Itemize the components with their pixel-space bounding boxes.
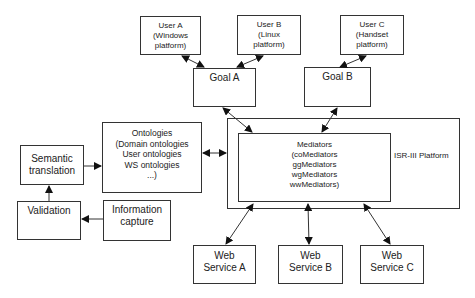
goal-b-box: Goal B [304, 67, 371, 107]
user-c-box: User C (Handset platform) [340, 15, 404, 55]
mediators-title: Mediators [297, 140, 332, 150]
ontologies-line: User ontologies [122, 149, 181, 160]
arrow-mediators-ws-a [226, 204, 253, 244]
goal-a-box: Goal A [193, 68, 256, 107]
ontologies-line: ...) [147, 170, 157, 181]
user-b-platform: platform) [253, 40, 285, 50]
arrow-mediators-ws-b [308, 204, 309, 244]
web-service-b-box: Web Service B [278, 245, 343, 284]
semantic-translation-line: translation [29, 165, 75, 177]
user-b-title: User B [257, 20, 281, 30]
mediators-line: wgMediators [292, 170, 337, 180]
user-a-box: User A (Windows platform) [140, 16, 201, 55]
mediators-line: ggMediators [292, 160, 336, 170]
user-a-platform: (Windows [153, 31, 188, 41]
user-b-box: User B (Linux platform) [237, 15, 301, 55]
user-a-platform: platform) [155, 41, 187, 51]
ontologies-title: Ontologies [132, 128, 173, 139]
web-service-c-line: Service C [370, 262, 413, 274]
arrow-mediators-ws-c [364, 204, 390, 244]
goal-b-label: Goal B [322, 71, 353, 83]
user-c-platform: platform) [356, 40, 388, 50]
goal-a-label: Goal A [209, 72, 239, 84]
arrow-user-c-goal-b [340, 56, 366, 67]
arrow-user-b-goal-a [237, 56, 263, 67]
information-capture-line: Information [112, 204, 162, 216]
mediators-box: Mediators (coMediators ggMediators wgMed… [238, 133, 391, 202]
web-service-c-line: Web [382, 250, 402, 262]
ontologies-line: (Domain ontologies [115, 139, 188, 150]
web-service-a-line: Service A [203, 262, 245, 274]
web-service-a-line: Web [214, 250, 234, 262]
information-capture-line: capture [120, 216, 153, 228]
semantic-translation-box: Semantic translation [20, 145, 84, 185]
user-c-title: User C [360, 20, 385, 30]
user-a-title: User A [158, 21, 182, 31]
platform-label: ISR-III Platform [394, 151, 449, 160]
validation-label: Validation [27, 205, 70, 217]
information-capture-box: Information capture [103, 200, 171, 241]
ontologies-box: Ontologies (Domain ontologies User ontol… [102, 122, 202, 193]
arrow-user-a-goal-a [182, 56, 204, 67]
web-service-b-line: Service B [289, 262, 332, 274]
web-service-c-box: Web Service C [360, 245, 424, 284]
user-b-platform: (Linux [258, 30, 280, 40]
mediators-line: wwMediators) [290, 180, 339, 190]
web-service-b-line: Web [300, 250, 320, 262]
web-service-a-box: Web Service A [193, 245, 256, 284]
mediators-line: (coMediators [291, 150, 337, 160]
ontologies-line: WS ontologies [125, 160, 180, 171]
user-c-platform: (Handset [356, 30, 388, 40]
validation-box: Validation [17, 201, 81, 240]
semantic-translation-line: Semantic [31, 153, 73, 165]
